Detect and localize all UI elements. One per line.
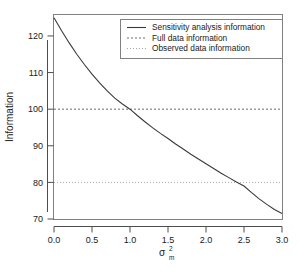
y-axis-ticks: 708090100110120	[28, 31, 54, 224]
y-tick-label: 90	[33, 141, 43, 151]
y-tick-label: 100	[28, 104, 43, 114]
y-axis-title: Information	[4, 92, 15, 142]
x-axis: 0.00.51.01.52.02.53.0	[48, 227, 289, 246]
x-tick-label: 2.5	[238, 235, 251, 245]
y-axis: 708090100110120	[28, 31, 54, 224]
x-axis-title-superscript: 2	[169, 245, 173, 252]
x-axis-ticks: 0.00.51.01.52.02.53.0	[48, 227, 289, 246]
x-axis-title-base: σ	[159, 247, 166, 258]
chart-canvas: 708090100110120 0.00.51.01.52.02.53.0 In…	[0, 0, 299, 274]
legend-label: Observed data information	[152, 43, 250, 53]
x-axis-title: σ 2 m	[159, 245, 175, 261]
x-axis-title-subscript: m	[169, 254, 174, 261]
x-tick-label: 0.5	[86, 235, 99, 245]
chart-legend[interactable]: Sensitivity analysis informationFull dat…	[121, 20, 283, 59]
y-tick-label: 70	[33, 214, 43, 224]
x-tick-label: 0.0	[48, 235, 61, 245]
x-tick-label: 1.0	[124, 235, 137, 245]
legend-label: Full data information	[152, 33, 228, 43]
chart-figure: 708090100110120 0.00.51.01.52.02.53.0 In…	[0, 0, 299, 274]
y-tick-label: 110	[29, 68, 43, 78]
y-tick-label: 120	[28, 31, 43, 41]
reference-lines	[54, 109, 282, 182]
x-tick-label: 3.0	[276, 235, 289, 245]
x-tick-label: 1.5	[162, 235, 175, 245]
y-tick-label: 80	[33, 178, 43, 188]
legend-label: Sensitivity analysis information	[152, 22, 265, 32]
x-tick-label: 2.0	[200, 235, 213, 245]
